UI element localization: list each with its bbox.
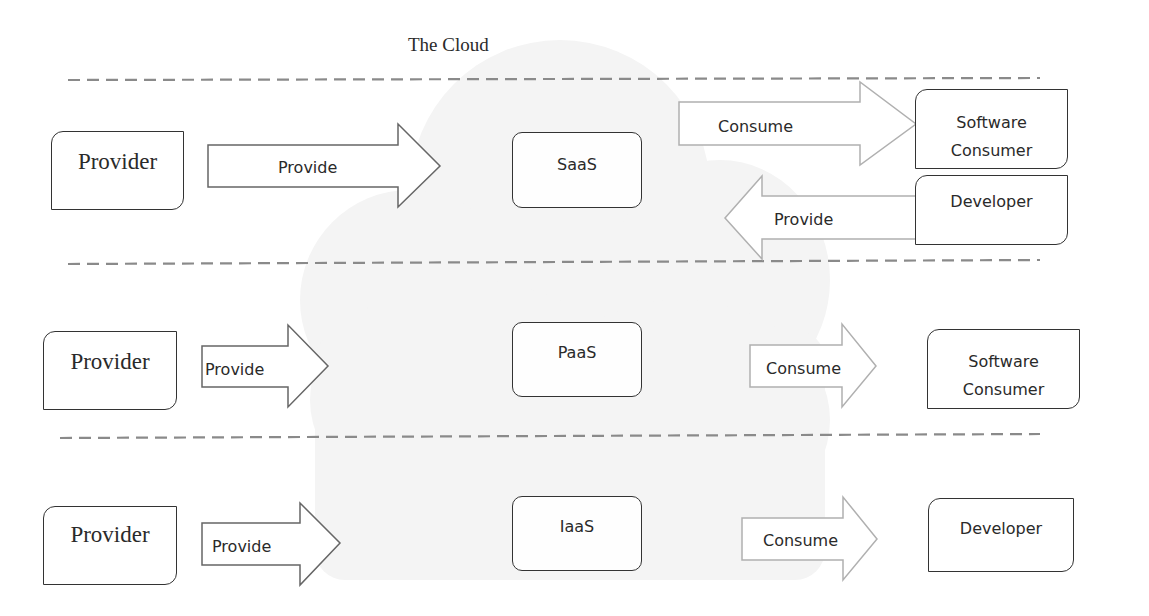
consumer-label-line1: Software — [956, 109, 1027, 137]
provide-label-paas: Provide — [205, 360, 264, 379]
provider-box-iaas: Provider — [43, 506, 177, 585]
developer-box-iaas: Developer — [928, 498, 1074, 572]
consumer-box-software-consumer-saas: Software Consumer — [915, 89, 1068, 169]
provide-label-iaas: Provide — [212, 537, 271, 556]
service-label: IaaS — [560, 517, 594, 536]
service-box-saas: SaaS — [512, 132, 642, 208]
developer-label: Developer — [960, 519, 1042, 538]
consumer-label-line2: Consumer — [963, 376, 1045, 404]
consume-label-paas: Consume — [766, 359, 841, 378]
service-box-paas: PaaS — [512, 322, 642, 397]
provider-label: Provider — [70, 522, 149, 548]
cloud-service-models-diagram: The Cloud Provider Provide SaaS Consume … — [0, 0, 1149, 616]
provider-label: Provider — [70, 349, 149, 375]
divider-top — [68, 78, 1040, 80]
service-box-iaas: IaaS — [512, 496, 642, 571]
consumer-label-line2: Consumer — [951, 137, 1033, 165]
diagram-title: The Cloud — [408, 34, 489, 56]
provider-box-saas: Provider — [51, 131, 184, 210]
consume-arrow-saas — [679, 82, 916, 165]
provider-label: Provider — [78, 149, 157, 175]
developer-label: Developer — [950, 192, 1032, 211]
consumer-box-software-consumer-paas: Software Consumer — [927, 329, 1080, 409]
service-label: SaaS — [557, 155, 597, 174]
consume-label-saas: Consume — [718, 117, 793, 136]
consume-label-iaas: Consume — [763, 531, 838, 550]
consumer-label-line1: Software — [968, 348, 1039, 376]
provide-label-saas: Provide — [278, 158, 337, 177]
provider-box-paas: Provider — [43, 331, 177, 410]
provide-label-developer-saas: Provide — [774, 210, 833, 229]
developer-box-saas: Developer — [915, 175, 1068, 245]
service-label: PaaS — [558, 343, 597, 362]
